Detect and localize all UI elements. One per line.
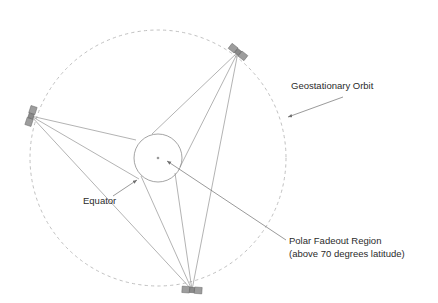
equator-label-line-0: Equator xyxy=(83,195,116,206)
geostationary-orbit-label: Geostationary Orbit xyxy=(291,80,374,91)
polar-fadeout-region-label-line-0: Polar Fadeout Region xyxy=(289,235,381,246)
earth-center-dot xyxy=(157,157,160,160)
diagram-canvas: Geostationary OrbitEquatorPolar Fadeout … xyxy=(0,0,438,303)
satellite-solar-panel-left xyxy=(182,286,190,293)
equator-label: Equator xyxy=(83,195,116,206)
orbit-diagram: Geostationary OrbitEquatorPolar Fadeout … xyxy=(0,0,438,303)
satellite-solar-panel-right xyxy=(194,287,202,294)
satellite-south xyxy=(182,286,202,294)
geostationary-orbit-label-line-0: Geostationary Orbit xyxy=(291,80,374,91)
polar-fadeout-region-label-line-1: (above 70 degrees latitude) xyxy=(289,248,405,259)
satellite-body xyxy=(189,287,194,293)
